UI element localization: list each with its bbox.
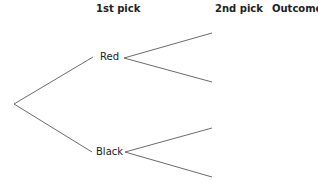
tree-diagram xyxy=(0,0,318,183)
branch-root-black xyxy=(14,104,92,152)
branch-black-upper xyxy=(125,128,212,152)
node-black: Black xyxy=(96,146,123,157)
branch-black-lower xyxy=(125,152,212,177)
branch-red-lower xyxy=(124,58,212,82)
node-red: Red xyxy=(100,51,119,62)
branch-root-red xyxy=(14,57,93,104)
branch-red-upper xyxy=(124,33,212,58)
